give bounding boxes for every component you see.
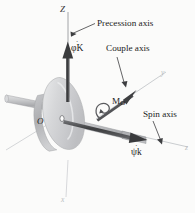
- axis-label-Z: Z: [60, 5, 65, 14]
- shaft-left-cap: [5, 95, 9, 102]
- flywheel-disk: [34, 77, 85, 151]
- origin-label: O: [37, 117, 44, 126]
- moment-subscript: O: [120, 99, 125, 107]
- figure-canvas: Z Precession axis ˙φK Couple axis y MO S…: [0, 0, 195, 213]
- dot-accent-phi: ˙: [76, 41, 79, 49]
- psi-with-dot: ˙ψk: [131, 147, 142, 157]
- dot-accent-psi: ˙: [135, 145, 138, 153]
- vector-label-spin: ˙ψk: [131, 148, 142, 158]
- vector-label-precession: ˙φK: [71, 44, 83, 54]
- axis-label-x: x: [61, 196, 64, 204]
- axis-label-y: y: [161, 69, 164, 77]
- gyroscope-diagram: [0, 0, 195, 213]
- axis-line-x-lower: [66, 160, 68, 197]
- callout-spin-axis: Spin axis: [143, 110, 177, 119]
- axis-label-z: z: [185, 144, 188, 152]
- phi-with-dot: ˙φK: [71, 43, 83, 53]
- leader-line-spin: [153, 121, 161, 141]
- callout-couple-axis: Couple axis: [106, 44, 150, 53]
- origin-marker: [60, 116, 64, 122]
- leader-arrowhead-spin: [157, 138, 163, 145]
- leader-line-couple: [117, 57, 125, 84]
- axis-line-z: [140, 136, 188, 147]
- callout-precession-axis: Precession axis: [97, 19, 153, 28]
- leader-line-precession: [73, 24, 96, 34]
- moment-symbol: M: [112, 96, 120, 106]
- leader-arrowhead-couple: [122, 81, 128, 88]
- moment-label: MO: [112, 97, 125, 107]
